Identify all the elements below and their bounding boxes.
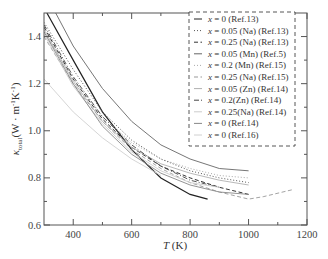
x-tick-label: 1000 [238,229,259,240]
legend-label: x = 0 (Ref.16) [207,130,259,140]
y-tick-label: 0.8 [28,172,41,183]
legend-item: x = 0.2(Zn) (Ref.14) [194,95,281,105]
x-tick-labels: 40060080010001200 [65,229,317,240]
x-axis-label-unit: (K) [169,239,187,252]
y-tick-label: 1.4 [28,31,42,42]
y-tick-label: 0.6 [28,220,41,231]
x-tick-label: 1200 [297,229,318,240]
legend-label: x = 0.2 (Mn) (Ref.15) [207,60,286,70]
legend-label: x = 0.2(Zn) (Ref.14) [207,95,281,105]
y-axis-label: κtotal(W · m-1K-1) [9,82,24,155]
y-tick-label: 1.2 [28,78,41,89]
legend-item: x = 0.25 (Na) (Ref.13) [194,37,289,47]
chart: 40060080010001200 0.60.81.01.21.4 T (K) … [0,0,328,259]
legend-label: x = 0.05 (Zn) (Ref.14) [207,84,288,94]
legend-item: x = 0.25(Na) (Ref.14) [194,107,286,117]
legend-item: x = 0.25 (Na) (Ref.15) [194,72,289,82]
legend-item: x = 0.2 (Mn) (Ref.15) [194,60,286,70]
legend-label: x = 0.05 (Mn) (Ref.5) [207,49,286,59]
legend-label: x = 0.25 (Na) (Ref.15) [207,72,289,82]
x-tick-label: 600 [124,229,140,240]
legend-label: x = 0.05 (Na) (Ref.13) [207,26,289,36]
y-tick-labels: 0.60.81.01.21.4 [28,31,42,230]
legend: x = 0 (Ref.13)x = 0.05 (Na) (Ref.13)x = … [189,12,295,146]
legend-label: x = 0.25(Na) (Ref.14) [207,107,286,117]
x-tick-label: 400 [65,229,81,240]
legend-label: x = 0.25 (Na) (Ref.13) [207,37,289,47]
legend-label: x = 0 (Ref.14) [207,118,259,128]
x-axis-label: T (K) [163,239,187,252]
legend-item: x = 0.05 (Na) (Ref.13) [194,26,289,36]
legend-item: x = 0.05 (Mn) (Ref.5) [194,49,286,59]
y-tick-label: 1.0 [28,125,41,136]
legend-label: x = 0 (Ref.13) [207,14,259,24]
legend-item: x = 0.05 (Zn) (Ref.14) [194,84,288,94]
